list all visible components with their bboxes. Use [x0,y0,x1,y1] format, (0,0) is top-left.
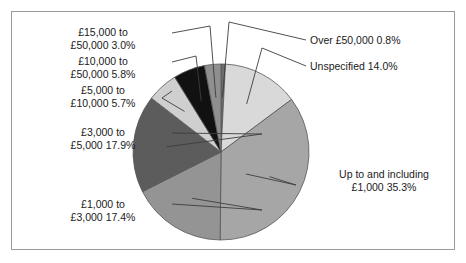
pie-label-15000-to-50000: £15,000 to £50,000 3.0% [38,26,168,52]
chart-page: Over £50,000 0.8% Unspecified 14.0% Up t… [0,0,466,263]
pie-label-10000-to-50000: £10,000 to £50,000 5.8% [38,55,168,81]
pie-label-up-to-1000: Up to and including £1,000 35.3% [314,168,454,194]
pie-label-over-50000: Over £50,000 0.8% [310,34,458,47]
pie-label-1000-to-3000: £1,000 to £3,000 17.4% [38,198,168,224]
pie-label-3000-to-5000: £3,000 to £5,000 17.9% [38,126,168,152]
pie-label-5000-to-10000: £5,000 to £10,000 5.7% [38,84,168,110]
pie-label-unspecified: Unspecified 14.0% [310,60,458,73]
